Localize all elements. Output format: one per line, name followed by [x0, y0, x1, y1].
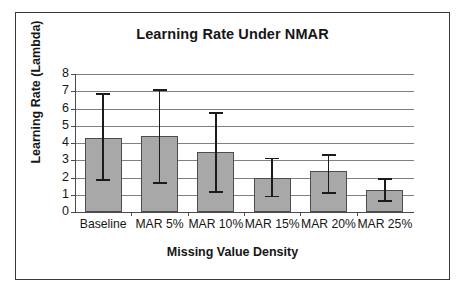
- chart-title: Learning Rate Under NMAR: [16, 26, 449, 42]
- gridline: [76, 195, 414, 196]
- error-bar-cap-upper: [265, 158, 279, 160]
- error-bar-cap-lower: [153, 182, 167, 184]
- y-tick-mark: [71, 212, 75, 213]
- gridline: [76, 91, 414, 92]
- x-tick-label: MAR 20%: [300, 217, 356, 231]
- y-tick-mark: [71, 143, 75, 144]
- y-tick-label: 2: [43, 170, 69, 184]
- gridline: [76, 143, 414, 144]
- y-tick-mark: [71, 195, 75, 196]
- x-tick-mark: [188, 212, 189, 216]
- gridline: [76, 126, 414, 127]
- y-tick-label: 5: [43, 118, 69, 132]
- x-tick-mark: [300, 212, 301, 216]
- error-bar-cap-upper: [96, 93, 110, 95]
- error-bar-cap-upper: [378, 178, 392, 180]
- error-bar-cap-upper: [322, 154, 336, 156]
- y-tick-mark: [71, 160, 75, 161]
- x-axis-title: Missing Value Density: [16, 245, 449, 259]
- error-bar-cap-lower: [265, 196, 279, 198]
- x-tick-label: MAR 25%: [357, 217, 413, 231]
- x-tick-label: MAR 15%: [244, 217, 300, 231]
- y-tick-mark: [71, 91, 75, 92]
- x-tick-mark: [244, 212, 245, 216]
- error-bar-cap-upper: [153, 89, 167, 91]
- error-bar-line: [271, 159, 273, 197]
- y-tick-label: 7: [43, 83, 69, 97]
- error-bar-line: [159, 90, 161, 182]
- y-tick-label: 8: [43, 66, 69, 80]
- error-bar-cap-lower: [322, 192, 336, 194]
- x-tick-label: Baseline: [75, 217, 131, 231]
- y-axis-title: Learning Rate (Lambda): [29, 17, 43, 167]
- gridline: [76, 109, 414, 110]
- y-tick-mark: [71, 126, 75, 127]
- x-tick-mark: [131, 212, 132, 216]
- chart-frame: Learning Rate Under NMAR Learning Rate (…: [15, 12, 450, 280]
- gridline: [76, 160, 414, 161]
- error-bar-line: [384, 179, 386, 201]
- error-bar-cap-lower: [96, 179, 110, 181]
- error-bar-line: [102, 94, 104, 180]
- x-tick-label: MAR 5%: [131, 217, 187, 231]
- x-tick-mark: [357, 212, 358, 216]
- y-tick-label: 0: [43, 204, 69, 218]
- x-tick-label: MAR 10%: [188, 217, 244, 231]
- y-tick-label: 6: [43, 101, 69, 115]
- y-tick-mark: [71, 178, 75, 179]
- y-tick-label: 3: [43, 152, 69, 166]
- gridline: [76, 178, 414, 179]
- y-tick-label: 1: [43, 187, 69, 201]
- plot-area: [75, 74, 414, 212]
- gridline: [76, 74, 414, 75]
- y-tick-mark: [71, 74, 75, 75]
- error-bar-cap-upper: [209, 112, 223, 114]
- error-bar-cap-lower: [209, 191, 223, 193]
- error-bar-line: [328, 155, 330, 193]
- y-tick-label: 4: [43, 135, 69, 149]
- y-tick-mark: [71, 109, 75, 110]
- error-bar-cap-lower: [378, 200, 392, 202]
- error-bar-line: [215, 113, 217, 192]
